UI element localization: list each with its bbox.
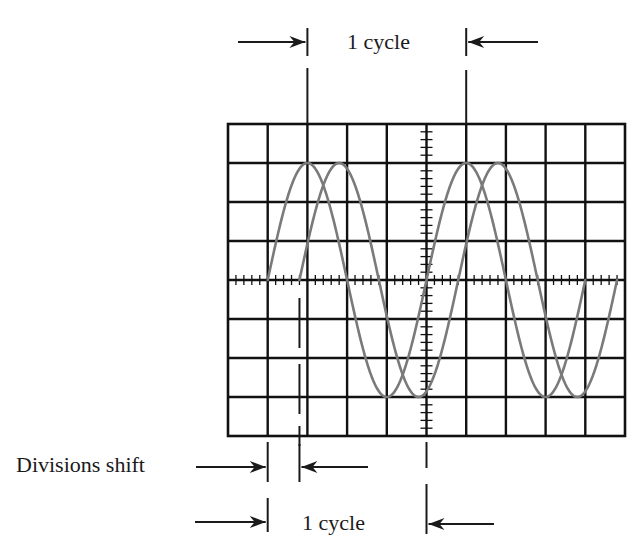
bottom-cycle-label: 1 cycle (302, 510, 365, 535)
top-cycle-label: 1 cycle (347, 29, 410, 54)
phase-shift-diagram: 1 cycle Divisions shift 1 cycle (0, 0, 642, 555)
divisions-shift-label: Divisions shift (16, 452, 145, 477)
